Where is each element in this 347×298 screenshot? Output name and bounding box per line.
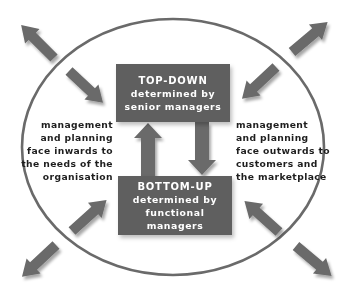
outward-line: face outwards to <box>236 144 346 157</box>
inward-line: and planning <box>14 131 113 144</box>
arrow-bottom-left-inward-icon <box>65 192 113 238</box>
outward-line: management <box>236 118 346 131</box>
bottom-up-title: BOTTOM-UP <box>118 180 232 193</box>
arrow-bottom-right-inward-icon <box>238 193 286 239</box>
outward-line: and planning <box>236 131 346 144</box>
bottom-up-line1: determined by <box>118 193 232 206</box>
top-down-box: TOP-DOWN determined by senior managers <box>116 64 230 122</box>
arrow-top-right-inward-icon <box>235 60 283 107</box>
bottom-up-box: BOTTOM-UP determined by functional manag… <box>118 176 232 235</box>
arrow-bottom-left-outward-icon <box>15 238 63 285</box>
arrow-down-icon <box>188 122 216 175</box>
bottom-up-line2: functional managers <box>118 206 232 232</box>
inward-line: management <box>14 118 113 131</box>
inward-line: the needs of the <box>14 157 113 170</box>
arrow-top-left-inward-icon <box>62 64 110 111</box>
inward-line: face inwards to <box>14 144 113 157</box>
top-down-title: TOP-DOWN <box>116 74 230 87</box>
arrow-top-left-outward-icon <box>14 18 61 65</box>
outward-line: customers and <box>236 157 346 170</box>
arrow-up-icon <box>134 123 162 176</box>
inward-line: organisation <box>14 170 113 183</box>
outward-line: the marketplace <box>236 170 346 183</box>
top-down-line1: determined by <box>116 87 230 100</box>
outward-description: management and planning face outwards to… <box>236 118 346 183</box>
top-down-line2: senior managers <box>116 100 230 113</box>
inward-description: management and planning face inwards to … <box>14 118 113 183</box>
arrow-bottom-right-outward-icon <box>289 238 338 284</box>
arrow-top-right-outward-icon <box>285 14 334 60</box>
